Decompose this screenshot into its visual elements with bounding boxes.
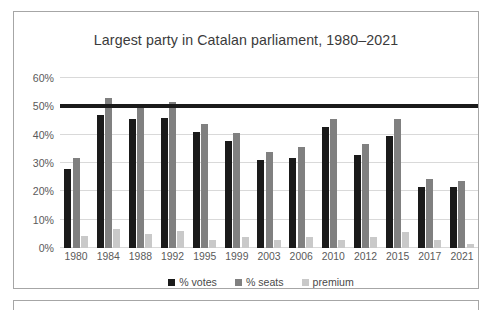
bar-seats <box>233 133 240 248</box>
bar-seats <box>105 98 112 248</box>
legend-item[interactable]: % seats <box>235 276 284 288</box>
x-axis-labels: 1980198419881992199519992003200620102012… <box>60 251 478 262</box>
x-axis-tick-label: 1980 <box>60 251 92 262</box>
bar-votes <box>225 141 232 248</box>
y-axis-tick-label: 60% <box>14 72 54 84</box>
bar-premium <box>434 240 441 248</box>
bar-votes <box>418 187 425 248</box>
bar-votes <box>64 169 71 248</box>
bar-premium <box>177 231 184 248</box>
bar-votes <box>257 160 264 248</box>
bar-premium <box>274 240 281 248</box>
chart-title: Largest party in Catalan parliament, 198… <box>14 32 478 48</box>
lower-panel <box>13 300 479 310</box>
y-axis-tick-label: 40% <box>14 129 54 141</box>
chart-frame: Largest party in Catalan parliament, 198… <box>13 11 479 289</box>
x-axis-tick-label: 2006 <box>285 251 317 262</box>
legend-swatch-icon <box>235 279 242 286</box>
bar-seats <box>201 124 208 248</box>
bar-seats <box>426 179 433 248</box>
bar-premium <box>113 229 120 248</box>
bar-seats <box>73 158 80 248</box>
bar-seats <box>266 152 273 248</box>
bar-premium <box>338 240 345 248</box>
legend-item-label: premium <box>313 276 354 288</box>
page-root: Largest party in Catalan parliament, 198… <box>0 0 494 310</box>
bar-seats <box>458 181 465 248</box>
legend-item-label: % votes <box>179 276 217 288</box>
majority-reference-line <box>60 104 478 108</box>
x-axis-tick-label: 1995 <box>189 251 221 262</box>
legend-item[interactable]: premium <box>302 276 354 288</box>
y-axis-tick-label: 20% <box>14 185 54 197</box>
y-axis-tick-label: 10% <box>14 214 54 226</box>
legend-item[interactable]: % votes <box>168 276 217 288</box>
bar-seats <box>394 119 401 248</box>
legend-swatch-icon <box>302 279 309 286</box>
bar-premium <box>370 237 377 248</box>
bar-votes <box>161 118 168 248</box>
x-axis-tick-label: 2021 <box>446 251 478 262</box>
bar-votes <box>289 158 296 248</box>
bar-premium <box>467 244 474 248</box>
x-axis-tick-label: 2015 <box>382 251 414 262</box>
x-axis-tick-label: 1992 <box>156 251 188 262</box>
bar-votes <box>193 132 200 248</box>
y-axis-tick-label: 30% <box>14 157 54 169</box>
x-axis-tick-label: 2012 <box>349 251 381 262</box>
bar-seats <box>169 102 176 248</box>
y-axis-tick-label: 0% <box>14 242 54 254</box>
bar-votes <box>354 155 361 248</box>
bar-votes <box>450 187 457 248</box>
legend-item-label: % seats <box>246 276 284 288</box>
legend-swatch-icon <box>168 279 175 286</box>
bar-votes <box>322 127 329 248</box>
chart-legend: % votes% seatspremium <box>14 276 494 288</box>
x-axis-tick-label: 1984 <box>92 251 124 262</box>
x-axis-tick-label: 1988 <box>124 251 156 262</box>
bar-premium <box>402 232 409 248</box>
bar-premium <box>306 237 313 248</box>
bar-premium <box>242 237 249 248</box>
bar-votes <box>386 136 393 248</box>
x-axis-tick-label: 1999 <box>221 251 253 262</box>
plot-area <box>60 78 478 248</box>
bar-seats <box>298 147 305 248</box>
x-axis-tick-label: 2003 <box>253 251 285 262</box>
bar-premium <box>145 234 152 248</box>
bar-votes <box>129 119 136 248</box>
bar-premium <box>209 240 216 248</box>
x-axis-tick-label: 2010 <box>317 251 349 262</box>
bar-seats <box>330 119 337 248</box>
y-axis-tick-label: 50% <box>14 100 54 112</box>
y-axis-labels: 0%10%20%30%40%50%60% <box>14 78 54 248</box>
x-axis-tick-label: 2017 <box>414 251 446 262</box>
bar-votes <box>97 115 104 248</box>
bar-seats <box>362 144 369 248</box>
bar-seats <box>137 105 144 248</box>
bar-premium <box>81 236 88 248</box>
